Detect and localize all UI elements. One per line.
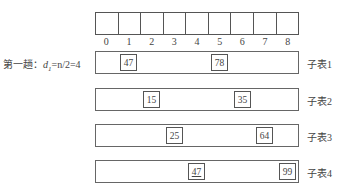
array-index: 4 (186, 36, 209, 47)
array-index: 6 (231, 36, 254, 47)
array-index: 1 (118, 36, 141, 47)
sublist-item: 64 (256, 127, 273, 144)
sublist-label-4: 子表4 (307, 165, 332, 180)
array-cell (231, 13, 254, 34)
array-index: 7 (254, 36, 277, 47)
sublist-label-1: 子表1 (307, 56, 332, 71)
array-cell (277, 13, 299, 34)
sublist-item: 99 (279, 163, 296, 180)
array-index: 8 (276, 36, 299, 47)
sublist-label-3: 子表3 (307, 129, 332, 144)
pass-formula: =n/2=4 (52, 59, 81, 70)
array-cell (186, 13, 209, 34)
pass-prefix: 第一趟： (3, 59, 43, 70)
array-cells (95, 12, 299, 35)
sublist-item: 47 (188, 163, 205, 180)
array-cell (164, 13, 187, 34)
array-cell (254, 13, 277, 34)
sublist-bar-1: 47 78 (95, 51, 299, 74)
array-index: 0 (95, 36, 118, 47)
array-cell (96, 13, 119, 34)
array-index: 5 (208, 36, 231, 47)
sublist-item: 35 (234, 91, 251, 108)
sublist-bar-4: 47 99 (95, 160, 299, 183)
sublist-item: 78 (211, 54, 228, 71)
sublist-item: 15 (143, 91, 160, 108)
sublist-item: 47 (120, 54, 137, 71)
array-cell (209, 13, 232, 34)
array-cell (119, 13, 142, 34)
pass-label: 第一趟：d1=n/2=4 (3, 56, 81, 73)
array-index: 2 (140, 36, 163, 47)
sublist-bar-3: 25 64 (95, 124, 299, 147)
array-cell (141, 13, 164, 34)
array-index: 3 (163, 36, 186, 47)
sublist-item: 25 (166, 127, 183, 144)
sublist-bar-2: 15 35 (95, 88, 299, 111)
sublist-label-2: 子表2 (307, 93, 332, 108)
